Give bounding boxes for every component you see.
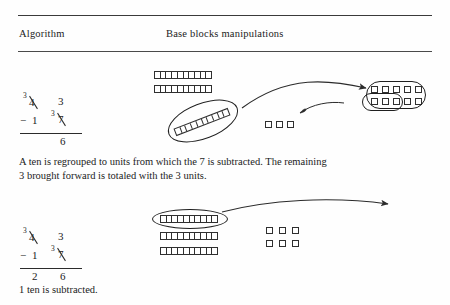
arrowhead-units-to-group-icon [300,109,306,113]
s1-result-units-digit: 6 [60,136,66,147]
s2-top-units-digit: 3 [58,231,64,242]
arrow-units-to-group-icon [300,102,344,113]
ring-s1-subtracted-three [362,93,403,111]
ring-s2-subtracted-ten [152,209,228,229]
s2-result-tens-digit: 2 [32,271,38,282]
s2-answer-rule [20,268,82,269]
column-header-base-blocks: Base blocks manipulations [166,28,284,39]
s1-top-units-digit: 3 [58,96,64,107]
s1-sub-units-digit: 7 [58,114,64,125]
header-rule-bottom [18,51,432,52]
s2-top-tens-superscript: 3 [23,227,27,235]
s2-sub-units-digit: 7 [58,249,64,260]
rod-s2-2 [160,232,218,240]
s1-top-tens-digit: 4 [29,97,35,108]
unit-s2-r1c2 [279,227,286,234]
unit-s2-r1c1 [266,227,273,234]
unit-s1-2 [276,121,283,128]
curved-arrow-regroup-icon [242,82,366,108]
s2-top-tens-digit: 4 [29,232,35,243]
unit-s2-r2c2 [279,240,286,247]
unit-s1-1 [265,121,272,128]
s1-top-tens-superscript: 3 [23,92,27,100]
curved-arrow-remove-ten-icon [222,200,388,212]
rod-s2-3 [160,247,218,255]
caption-step-1: A ten is regrouped to units from which t… [19,155,329,182]
unit-s2-r2c3 [292,240,299,247]
s2-result-units-digit: 6 [60,271,66,282]
caption-step-2: 1 ten is subtracted. [19,283,329,297]
worksheet-page: Algorithm Base blocks manipulations 3 4 … [0,0,450,305]
header-rule-top [18,15,432,16]
column-header-algorithm: Algorithm [19,28,65,39]
s2-minus-operator: − [20,250,26,261]
unit-s2-r2c1 [266,240,273,247]
s1-answer-rule [20,133,82,134]
s2-sub-units-superscript: 3 [51,245,55,253]
s1-minus-operator: − [20,115,26,126]
unit-s1-3 [287,121,294,128]
algorithm-step-1: 3 4 3 − 1 3 7 6 [20,92,90,148]
rod-s1-1 [154,71,212,79]
s1-sub-units-superscript: 3 [51,110,55,118]
s1-sub-tens-digit: 1 [32,115,38,126]
unit-s2-r1c3 [292,227,299,234]
algorithm-step-2: 3 4 3 − 1 3 7 2 6 [20,227,90,283]
s2-sub-tens-digit: 1 [32,250,38,261]
rod-s1-2 [154,85,212,93]
ring-s1-regrouped-rod [162,91,244,151]
